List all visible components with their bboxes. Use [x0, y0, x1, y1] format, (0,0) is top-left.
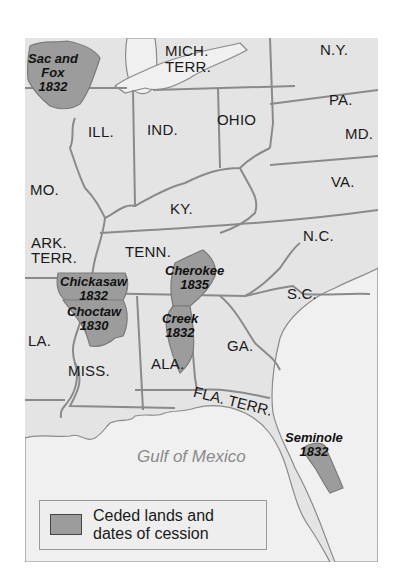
state-label-mich-terr: MICH. TERR. [165, 43, 211, 75]
state-label-ky: KY. [170, 201, 193, 216]
cession-year: 1835 [165, 278, 224, 292]
cession-label-creek: Creek 1832 [162, 312, 198, 340]
cession-year: 1832 [162, 326, 198, 340]
state-label-miss: MISS. [68, 363, 110, 378]
cession-year: 1832 [28, 80, 78, 94]
cession-label-choctaw: Choctaw 1830 [67, 305, 121, 333]
legend-text: Ceded lands and dates of cession [93, 507, 214, 543]
state-label-sc: S.C. [287, 286, 317, 301]
label-line: ARK. [31, 235, 77, 250]
cession-name: Sac and [28, 52, 78, 66]
cession-label-cherokee: Cherokee 1835 [165, 264, 224, 292]
state-label-md: MD. [345, 126, 373, 141]
cession-name: Creek [162, 312, 198, 326]
cession-year: 1832 [285, 445, 343, 459]
map: MICH. TERR. N.Y. PA. MD. ILL. IND. OHIO … [25, 38, 378, 562]
state-label-pa: PA. [329, 92, 353, 107]
cession-year: 1832 [60, 289, 127, 303]
cession-name: Fox [28, 66, 78, 80]
legend-line-1: Ceded lands and [93, 507, 214, 525]
state-label-ala: ALA. [151, 356, 184, 371]
state-label-va: VA. [331, 174, 355, 189]
cession-label-chickasaw: Chickasaw 1832 [60, 275, 127, 303]
cession-name: Choctaw [67, 305, 121, 319]
cession-year: 1830 [67, 319, 121, 333]
state-label-ohio: OHIO [217, 112, 256, 127]
cession-name: Seminole [285, 431, 343, 445]
cession-name: Chickasaw [60, 275, 127, 289]
state-label-ny: N.Y. [320, 42, 348, 57]
state-label-ark-terr: ARK. TERR. [31, 235, 77, 265]
state-label-ill: ILL. [88, 124, 114, 139]
ceded-lands-swatch [50, 514, 82, 535]
label-line: TERR. [165, 59, 211, 75]
state-label-tenn: TENN. [125, 244, 171, 259]
state-label-ind: IND. [147, 122, 178, 137]
state-label-ga: GA. [227, 338, 253, 353]
state-label-nc: N.C. [303, 228, 334, 243]
cession-label-seminole: Seminole 1832 [285, 431, 343, 459]
label-line: TERR. [31, 250, 77, 265]
cession-label-sac-and-fox: Sac and Fox 1832 [28, 52, 78, 94]
state-label-mo: MO. [30, 182, 59, 197]
map-legend: Ceded lands and dates of cession [39, 500, 267, 550]
label-line: MICH. [165, 43, 211, 59]
cession-name: Cherokee [165, 264, 224, 278]
water-label-gulf-of-mexico: Gulf of Mexico [137, 447, 246, 467]
legend-line-2: dates of cession [93, 525, 214, 543]
state-label-la: LA. [28, 333, 51, 348]
